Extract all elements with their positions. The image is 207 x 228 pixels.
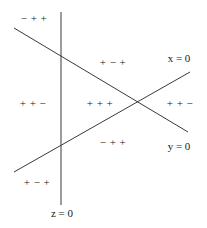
- region-label-middle-center: + + +: [87, 98, 114, 109]
- sign-region-diagram: − + + + − + + + − + + + + + − − + + + − …: [0, 0, 207, 228]
- axis-label-z-equals-zero: z = 0: [51, 208, 73, 219]
- region-label-upper-center: + − +: [100, 57, 127, 68]
- region-label-lower-center: − + +: [100, 137, 127, 148]
- axis-label-y-equals-zero: y = 0: [168, 141, 191, 152]
- region-label-middle-right: + + −: [167, 98, 194, 109]
- region-label-middle-left: + + −: [20, 98, 47, 109]
- region-label-top-left: − + +: [21, 13, 48, 24]
- line-y-equals-zero: [14, 28, 188, 132]
- axis-label-x-equals-zero: x = 0: [168, 53, 191, 64]
- line-x-equals-zero: [14, 72, 190, 172]
- diagram-lines: [0, 0, 207, 228]
- region-label-bottom-left: + − +: [24, 177, 51, 188]
